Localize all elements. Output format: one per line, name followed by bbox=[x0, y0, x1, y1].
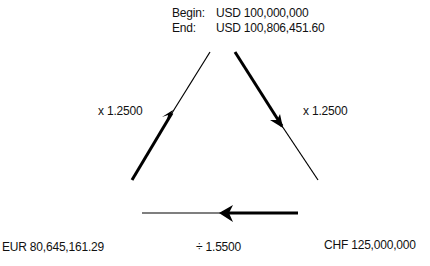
eur-node-label: EUR 80,645,161.29 bbox=[2, 240, 104, 254]
chf-node-label: CHF 125,000,000 bbox=[324, 238, 416, 252]
triangle-diagram bbox=[0, 0, 430, 266]
bottom-edge-arrow bbox=[142, 205, 298, 222]
left-edge-arrow bbox=[132, 52, 210, 180]
bottom-edge-rate: ÷ 1.5500 bbox=[196, 240, 241, 254]
left-edge-rate: x 1.2500 bbox=[98, 104, 142, 118]
right-edge-rate: x 1.2500 bbox=[303, 104, 347, 118]
